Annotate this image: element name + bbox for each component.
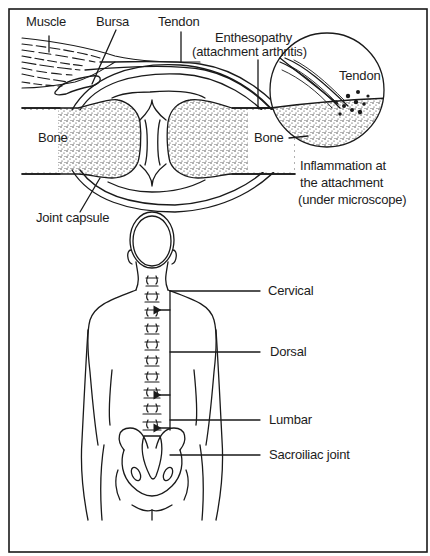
label-inset-bone: Bone: [254, 130, 284, 145]
head: [130, 212, 174, 268]
inset-caption-line1: Inflammation at: [300, 158, 386, 173]
label-tendon: Tendon: [158, 14, 199, 29]
label-lumbar: Lumbar: [269, 412, 312, 427]
inset-caption-line3: (under microscope): [298, 192, 406, 207]
spine-figure: [81, 212, 260, 520]
arm-right: [216, 330, 223, 520]
label-inset-tendon: Tendon: [339, 68, 380, 83]
label-sacroiliac-joint: Sacroiliac joint: [269, 447, 350, 462]
sacrum: [142, 436, 162, 479]
label-muscle: Muscle: [26, 14, 66, 29]
ear-left: [128, 250, 132, 264]
label-dorsal: Dorsal: [270, 344, 306, 359]
inset-caption-line2: the attachment: [300, 175, 383, 190]
label-joint-capsule: Joint capsule: [36, 210, 109, 225]
anatomy-illustration: [0, 0, 430, 556]
torso-left: [88, 290, 136, 445]
torso-right: [168, 290, 216, 445]
arm-left: [81, 330, 88, 520]
vertebral-column: [143, 276, 161, 430]
cartilage-bottom: [108, 180, 205, 192]
label-enthesopathy-line1: Enthesopathy: [215, 30, 292, 45]
anatomy-figure: Muscle Bursa Tendon Enthesopathy (attach…: [0, 0, 430, 556]
label-cervical: Cervical: [268, 283, 313, 298]
label-bone-left: Bone: [38, 130, 68, 145]
pelvis: [116, 428, 188, 520]
ear-right: [172, 250, 176, 264]
label-bursa: Bursa: [96, 14, 129, 29]
label-enthesopathy-line2: (attachment arthritis): [192, 44, 307, 59]
cartilage-top: [112, 91, 205, 98]
bursa: [55, 76, 100, 95]
